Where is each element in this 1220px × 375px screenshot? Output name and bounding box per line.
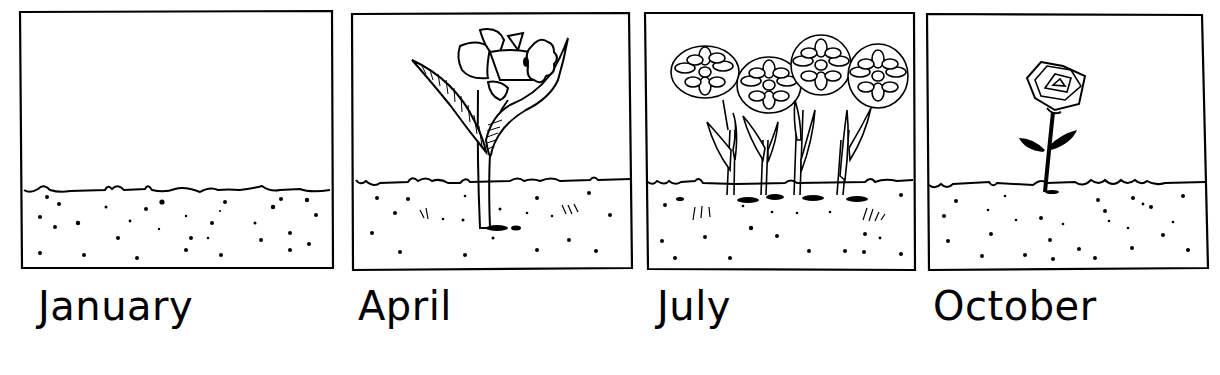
panel-october: October (915, 0, 1220, 375)
month-label-april: April (358, 286, 452, 326)
panel-april: April (340, 0, 640, 375)
panel-january: January (0, 0, 340, 375)
month-label-january: January (38, 286, 193, 326)
panel-july: July (635, 0, 925, 375)
month-label-october: October (933, 286, 1097, 326)
month-label-july: July (657, 286, 731, 326)
